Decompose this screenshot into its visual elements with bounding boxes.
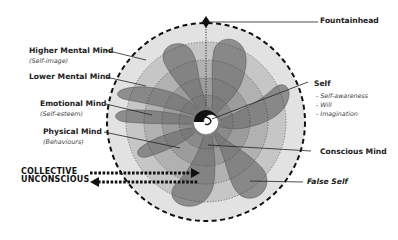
label-fountainhead: Fountainhead	[320, 17, 379, 25]
label-behaviours: (Behaviours)	[43, 139, 84, 145]
label-collective-unconscious: COLLECTIVE UNCONSCIOUS	[21, 168, 89, 185]
label-lower-mental-mind: Lower Mental Mind	[29, 73, 111, 81]
label-higher-mental-mind: Higher Mental Mind	[29, 47, 113, 55]
unconscious-line: UNCONSCIOUS	[21, 176, 89, 184]
self-attribute: - Self-awareness	[316, 91, 368, 100]
label-self-image: (Self-image)	[29, 58, 68, 64]
label-self: Self	[314, 80, 331, 88]
self-attribute: - Imagination	[316, 109, 368, 118]
label-emotional-mind: Emotional Mind	[40, 100, 107, 108]
label-false-self: False Self	[307, 178, 348, 186]
self-attribute: - Will	[316, 100, 368, 109]
mind-model-diagram	[0, 0, 398, 240]
label-physical-mind: Physical Mind	[43, 128, 102, 136]
label-conscious-mind: Conscious Mind	[320, 148, 387, 156]
label-self-esteem: (Self-esteem)	[40, 111, 83, 117]
self-attributes-list: - Self-awareness - Will - Imagination	[316, 91, 368, 118]
